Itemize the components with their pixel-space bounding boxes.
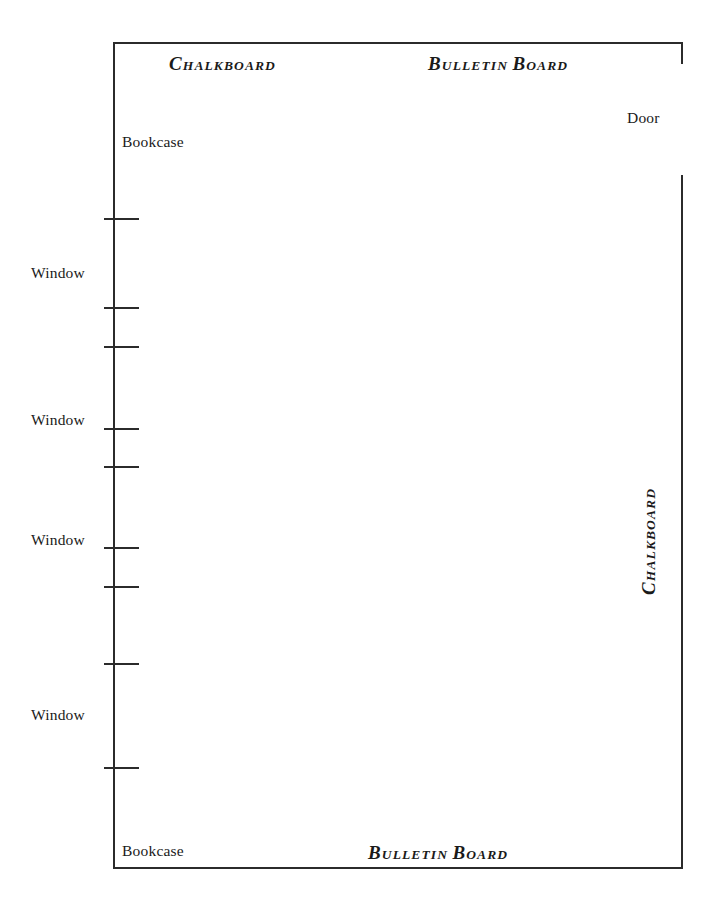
label-bulletin-board-top-initial-1: B (428, 53, 442, 74)
label-bulletin-board-bottom-initial-2: B (452, 842, 466, 863)
label-window-3: Window (31, 532, 85, 548)
label-bulletin-board-bottom: BULLETIN BOARD (368, 843, 508, 862)
wall-bottom (113, 867, 683, 869)
window-tick (104, 547, 139, 549)
window-tick (104, 346, 139, 348)
label-door: Door (627, 110, 660, 126)
window-tick (104, 767, 139, 769)
label-bookcase-bottom: Bookcase (122, 843, 184, 859)
label-chalkboard-right: CHALKBOARD (639, 488, 658, 595)
label-bulletin-board-top-rest-1: ULLETIN (442, 58, 508, 73)
wall-right-stub (681, 42, 683, 64)
label-bookcase-top: Bookcase (122, 134, 184, 150)
label-bulletin-board-top-rest-2: OARD (526, 58, 568, 73)
label-bulletin-board-top-initial-2: B (512, 53, 526, 74)
window-tick (104, 586, 139, 588)
label-window-4: Window (31, 707, 85, 723)
wall-left (113, 42, 115, 869)
label-bulletin-board-top: BULLETIN BOARD (428, 54, 568, 73)
label-chalkboard-top-rest: HALKBOARD (183, 58, 276, 73)
window-tick (104, 428, 139, 430)
label-chalkboard-top: CHALKBOARD (169, 54, 276, 73)
window-tick (104, 663, 139, 665)
label-window-2: Window (31, 412, 85, 428)
label-bulletin-board-bottom-initial-1: B (368, 842, 382, 863)
label-bulletin-board-bottom-rest-2: OARD (466, 847, 508, 862)
label-chalkboard-top-initial: C (169, 53, 183, 74)
label-window-1: Window (31, 265, 85, 281)
window-tick (104, 218, 139, 220)
window-tick (104, 466, 139, 468)
label-chalkboard-right-initial: C (638, 581, 659, 595)
classroom-floor-plan: CHALKBOARD BULLETIN BOARD Door Bookcase … (0, 0, 714, 900)
wall-top (113, 42, 683, 44)
wall-right (681, 175, 683, 869)
label-bulletin-board-bottom-rest-1: ULLETIN (382, 847, 448, 862)
window-tick (104, 307, 139, 309)
label-chalkboard-right-rest: HALKBOARD (643, 488, 658, 581)
